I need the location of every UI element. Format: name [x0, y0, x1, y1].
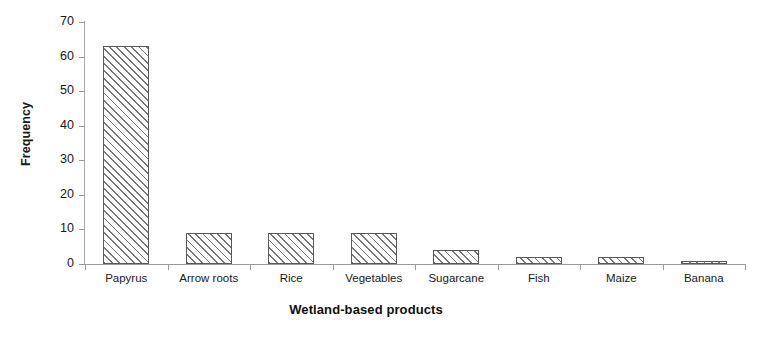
y-axis-tick-mark: [79, 22, 85, 23]
y-axis-tick-label: 20: [60, 187, 74, 201]
bar: [433, 250, 479, 264]
x-axis-category-label: Papyrus: [105, 272, 147, 284]
y-axis-tick-label: 40: [60, 118, 74, 132]
x-axis-title-text: Wetland-based products: [289, 302, 443, 317]
bar: [598, 257, 644, 264]
bar: [681, 261, 727, 264]
x-axis-tick-mark: [498, 264, 499, 270]
y-axis-tick-label: 50: [60, 83, 74, 97]
y-axis-tick-label: 30: [60, 152, 74, 166]
x-axis-tick-mark: [85, 264, 86, 270]
bar: [516, 257, 562, 264]
bar-chart: Frequency 010203040506070 PapyrusArrow r…: [0, 0, 778, 337]
x-axis-tick-mark: [415, 264, 416, 270]
bar: [186, 233, 232, 264]
x-axis-category-label: Banana: [684, 272, 724, 284]
x-axis-category-label: Maize: [606, 272, 637, 284]
y-axis-title-text: Frequency: [19, 102, 33, 166]
x-axis-tick-mark: [580, 264, 581, 270]
bar: [351, 233, 397, 264]
x-axis-category-label: Vegetables: [345, 272, 402, 284]
y-axis-line: [84, 21, 85, 265]
y-axis-tick-mark: [79, 195, 85, 196]
y-axis-tick-label: 70: [60, 14, 74, 28]
x-axis-tick-mark: [745, 264, 746, 270]
y-axis-tick-mark: [79, 160, 85, 161]
x-axis-category-label: Fish: [528, 272, 550, 284]
y-axis-tick-mark: [79, 126, 85, 127]
bar: [103, 46, 149, 264]
x-axis-category-label: Sugarcane: [428, 272, 484, 284]
x-axis-tick-mark: [333, 264, 334, 270]
x-axis-tick-mark: [168, 264, 169, 270]
y-axis-tick-label: 60: [60, 49, 74, 63]
y-axis-tick-label: 0: [67, 256, 74, 270]
bar: [268, 233, 314, 264]
x-axis-title: Wetland-based products: [0, 302, 778, 317]
y-axis-title: Frequency: [14, 0, 38, 268]
x-axis-category-label: Rice: [280, 272, 303, 284]
x-axis-category-label: Arrow roots: [179, 272, 238, 284]
x-axis-tick-mark: [663, 264, 664, 270]
x-axis-tick-mark: [250, 264, 251, 270]
y-axis-tick-label: 10: [60, 221, 74, 235]
y-axis-tick-mark: [79, 229, 85, 230]
y-axis-tick-mark: [79, 91, 85, 92]
y-axis-tick-mark: [79, 57, 85, 58]
